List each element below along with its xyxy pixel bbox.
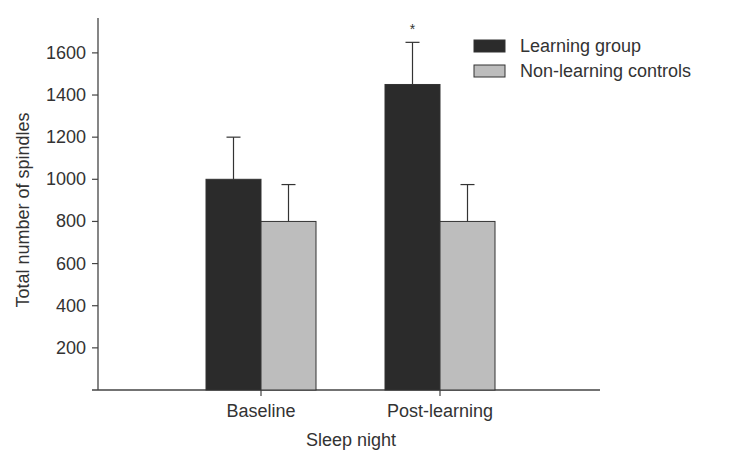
y-tick-label: 800 — [56, 211, 86, 231]
x-category-label: Baseline — [226, 401, 295, 421]
y-tick-label: 400 — [56, 296, 86, 316]
y-tick-label: 200 — [56, 338, 86, 358]
y-tick-label: 1600 — [46, 43, 86, 63]
y-tick-label: 1200 — [46, 127, 86, 147]
bar-control-0 — [261, 221, 316, 390]
y-tick-label: 1000 — [46, 169, 86, 189]
legend-label-0: Learning group — [520, 36, 641, 56]
bar-learning-1 — [385, 84, 440, 390]
legend-swatch-1 — [474, 65, 505, 77]
significance-marker: * — [410, 21, 416, 37]
bar-learning-0 — [206, 179, 261, 390]
x-axis-title: Sleep night — [306, 430, 396, 450]
bar-control-1 — [440, 221, 495, 390]
y-tick-label: 1400 — [46, 85, 86, 105]
y-tick-label: 600 — [56, 254, 86, 274]
bar-chart: 2004006008001000120014001600Total number… — [0, 0, 733, 470]
legend-swatch-0 — [474, 40, 505, 52]
x-category-label: Post-learning — [387, 401, 493, 421]
legend-label-1: Non-learning controls — [520, 61, 691, 81]
y-axis-title: Total number of spindles — [13, 112, 33, 307]
